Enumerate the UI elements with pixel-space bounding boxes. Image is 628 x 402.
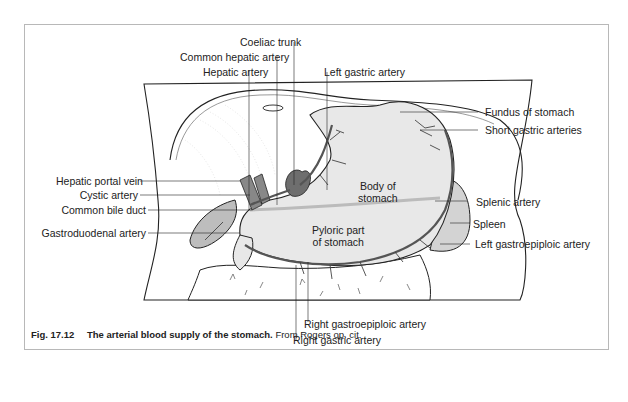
figure-title: The arterial blood supply of the stomach…: [87, 329, 273, 340]
oesophageal-opening: [263, 105, 283, 111]
label-left-gastroepiploic-artery: Left gastroepiploic artery: [475, 238, 590, 250]
label-spleen: Spleen: [473, 218, 506, 230]
label-hepatic-artery: Hepatic artery: [203, 66, 268, 78]
label-cystic-artery: Cystic artery: [56, 189, 138, 201]
label-fundus-of-stomach: Fundus of stomach: [485, 106, 574, 118]
label-gastroduodenal-artery: Gastroduodenal artery: [30, 227, 146, 239]
label-splenic-artery: Splenic artery: [476, 196, 540, 208]
label-pyloric-line1: Pyloric part: [312, 224, 365, 236]
figure-number: Fig. 17.12: [31, 329, 74, 340]
label-common-bile-duct: Common bile duct: [46, 204, 146, 216]
figure-source: From Rogers op. cit.: [275, 329, 361, 340]
label-hepatic-portal-vein: Hepatic portal vein: [56, 175, 138, 187]
label-common-hepatic-artery: Common hepatic artery: [180, 51, 289, 63]
gallbladder: [190, 200, 237, 248]
label-short-gastric-arteries: Short gastric arteries: [485, 124, 582, 136]
label-coeliac-trunk: Coeliac trunk: [240, 36, 301, 48]
label-body-line1: Body of: [360, 180, 396, 192]
figure-caption: Fig. 17.12 The arterial blood supply of …: [31, 329, 361, 340]
label-body-of-stomach: Body ofstomach: [358, 180, 398, 204]
duodenum: [233, 235, 253, 270]
label-pyloric-line2: of stomach: [313, 236, 364, 248]
label-body-line2: stomach: [358, 192, 398, 204]
label-left-gastric-artery: Left gastric artery: [324, 66, 405, 78]
label-pyloric-part: Pyloric partof stomach: [312, 224, 365, 248]
